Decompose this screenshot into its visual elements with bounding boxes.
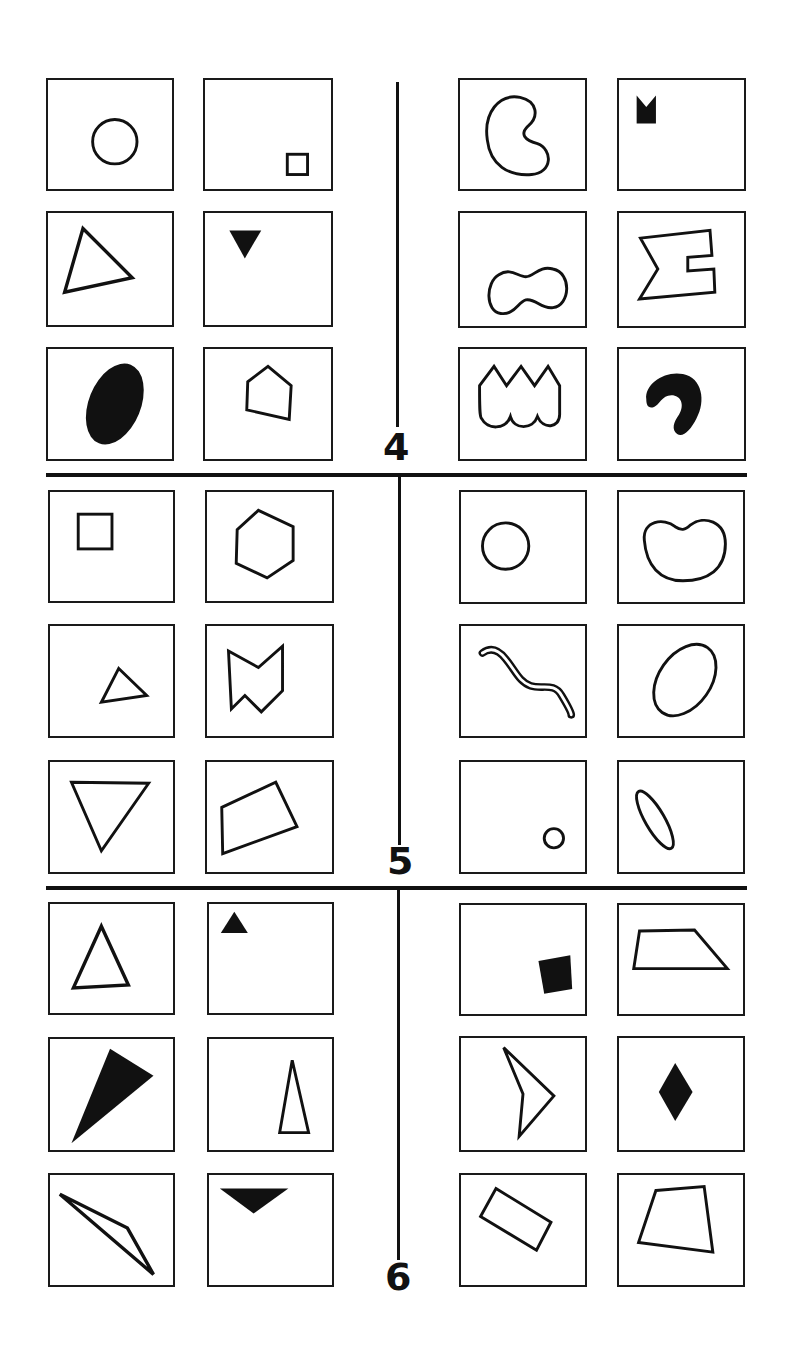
rectangle-outline-icon: [461, 1175, 585, 1285]
long-thin-triangle-outline-icon: [50, 1175, 173, 1285]
card-4-left-1: [46, 78, 174, 191]
card-4-left-4: [203, 211, 333, 327]
hexagon-outline-icon: [207, 492, 332, 601]
kidney-c-outline-icon: [460, 80, 585, 189]
square-filled-icon: [461, 905, 585, 1014]
bean-outline-icon: [619, 492, 743, 602]
quadrilateral-outline-icon: [207, 762, 332, 872]
card-4-right-2: [617, 78, 746, 191]
narrow-ellipse-outline-icon: [619, 762, 743, 872]
card-6-right-3: [459, 1036, 587, 1152]
card-6-left-3: [48, 1037, 175, 1152]
card-4-left-2: [203, 78, 333, 191]
pentagon-outline-icon: [205, 349, 331, 459]
card-5-right-5: [459, 760, 587, 874]
card-6-right-6: [617, 1173, 745, 1287]
square-outline-icon: [50, 492, 173, 601]
card-5-left-4: [205, 624, 334, 738]
problem-label-6: 6: [385, 1258, 411, 1296]
small-triangle-filled-icon: [209, 904, 332, 1013]
card-4-left-3: [46, 211, 174, 327]
trapezoid-outline-icon: [619, 905, 743, 1014]
card-4-right-5: [458, 347, 587, 461]
divider-horizontal-4-5: [46, 473, 747, 477]
card-6-left-4: [207, 1037, 334, 1152]
card-5-left-1: [48, 490, 175, 603]
arrowhead-outline-icon: [461, 1038, 585, 1150]
hook-blob-filled-icon: [619, 349, 744, 459]
circle-outline-icon: [48, 80, 172, 189]
small-triangle-outline-icon: [50, 626, 173, 736]
triangle-outline-icon: [50, 904, 173, 1013]
ellipse-filled-icon: [48, 349, 172, 459]
quadrilateral-outline-icon: [619, 1175, 743, 1285]
tall-thin-triangle-outline-icon: [209, 1039, 332, 1150]
card-4-right-1: [458, 78, 587, 191]
inverted-triangle-filled-icon: [209, 1175, 332, 1285]
problem-label-5: 5: [387, 842, 413, 880]
inverted-triangle-outline-icon: [50, 762, 173, 872]
divider-vertical-6: [397, 888, 400, 1260]
diamond-filled-icon: [619, 1038, 743, 1150]
card-6-right-4: [617, 1036, 745, 1152]
card-6-right-5: [459, 1173, 587, 1287]
card-5-right-4: [617, 624, 745, 738]
card-5-right-3: [459, 624, 587, 738]
peanut-outline-icon: [460, 213, 585, 326]
worm-outline-icon: [461, 626, 585, 736]
circle-outline-icon: [461, 492, 585, 602]
card-6-left-1: [48, 902, 175, 1015]
divider-vertical-4: [396, 82, 399, 427]
card-4-right-4: [617, 211, 746, 328]
small-square-outline-icon: [205, 80, 331, 189]
card-5-left-2: [205, 490, 334, 603]
card-6-right-2: [617, 903, 745, 1016]
card-4-right-3: [458, 211, 587, 328]
crown-scallop-outline-icon: [460, 349, 585, 459]
card-5-left-5: [48, 760, 175, 874]
card-6-left-2: [207, 902, 334, 1015]
card-6-left-6: [207, 1173, 334, 1287]
notched-square-filled-icon: [619, 80, 744, 189]
problem-label-4: 4: [383, 428, 409, 466]
card-5-left-3: [48, 624, 175, 738]
card-5-left-6: [205, 760, 334, 874]
card-6-left-5: [48, 1173, 175, 1287]
card-4-left-5: [46, 347, 174, 461]
card-6-right-1: [459, 903, 587, 1016]
wedge-triangle-filled-icon: [50, 1039, 173, 1150]
card-5-right-1: [459, 490, 587, 604]
card-4-left-6: [203, 347, 333, 461]
zigzag-polygon-outline-icon: [207, 626, 332, 736]
card-5-right-2: [617, 490, 745, 604]
divider-vertical-5: [398, 477, 401, 845]
small-inverted-triangle-filled-icon: [205, 213, 331, 325]
small-circle-outline-icon: [461, 762, 585, 872]
triangle-outline-icon: [48, 213, 172, 325]
oval-outline-icon: [619, 626, 743, 736]
card-4-right-6: [617, 347, 746, 461]
card-5-right-6: [617, 760, 745, 874]
sigma-polygon-outline-icon: [619, 213, 744, 326]
